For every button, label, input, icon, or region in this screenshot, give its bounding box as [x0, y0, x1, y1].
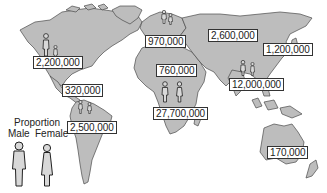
male-person-icon [240, 60, 246, 76]
male-figure-asia [240, 60, 246, 76]
male-figure-europe [161, 10, 167, 24]
male-figure-africa [161, 81, 169, 103]
male-person-icon [11, 141, 27, 187]
legend-male-label: Male [8, 128, 30, 139]
island-new-zealand [306, 160, 318, 178]
value-label-sub-saharan-africa: 27,700,000 [153, 107, 208, 120]
female-person-icon [176, 81, 183, 103]
female-person-icon [41, 143, 53, 187]
male-person-icon [161, 81, 169, 103]
male-figure-south-america [78, 100, 83, 114]
male-person-icon [42, 33, 50, 57]
female-person-icon [250, 62, 255, 76]
value-label-western-europe: 970,000 [145, 35, 186, 48]
legend-title: Proportion [14, 117, 60, 128]
female-figure-europe [168, 13, 173, 25]
male-person-icon [78, 100, 83, 114]
value-label-north-america: 2,200,000 [33, 56, 83, 69]
value-label-oceania: 170,000 [267, 146, 308, 159]
islands-southeast-asia [252, 88, 302, 118]
value-label-east-asia: 1,200,000 [263, 43, 313, 56]
female-person-icon [87, 102, 92, 114]
female-figure-asia [250, 62, 255, 76]
legend-male-figure [11, 141, 27, 187]
female-person-icon [168, 13, 173, 25]
male-figure-north-america [42, 33, 50, 57]
value-label-south-southeast-asia: 12,000,000 [229, 78, 284, 91]
value-label-north-africa-middle-east: 760,000 [156, 64, 197, 77]
female-figure-africa [176, 81, 183, 103]
male-person-icon [161, 10, 167, 24]
female-figure-south-america [87, 102, 92, 114]
value-label-eastern-europe-central-asia: 2,600,000 [208, 29, 258, 42]
legend-female-label: Female [35, 128, 68, 139]
value-label-south-america: 2,500,000 [67, 121, 117, 134]
legend-female-figure [41, 143, 53, 187]
value-label-central-america-caribbean: 320,000 [62, 84, 103, 97]
